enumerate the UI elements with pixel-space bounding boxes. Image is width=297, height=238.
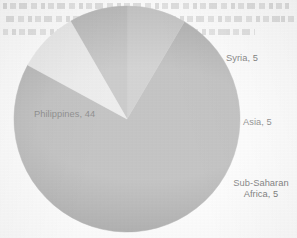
slice-label-sub-saharan-africa: Sub-Saharan Africa, 5 bbox=[228, 178, 294, 201]
slice-label-line-2: Africa, 5 bbox=[244, 189, 279, 199]
slice-label-asia: Asia, 5 bbox=[243, 117, 272, 128]
slice-label-philippines: Philippines, 44 bbox=[34, 109, 95, 120]
slice-label-syria: Syria, 5 bbox=[226, 53, 258, 64]
pie-chart-page: Philippines, 44 Syria, 5 Asia, 5 Sub-Sah… bbox=[0, 0, 297, 238]
slice-label-line-1: Sub-Saharan bbox=[233, 178, 288, 188]
